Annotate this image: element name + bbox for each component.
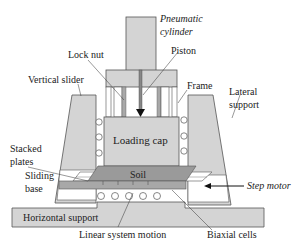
label-frame: Frame [187, 80, 213, 91]
label-horizontal-support: Horizontal support [23, 212, 98, 223]
label-step-motor: Step motor [247, 180, 291, 191]
frame-post-left-inner [114, 87, 122, 117]
label-pneumatic-cylinder-2: cylinder [160, 26, 193, 37]
sliding-base [59, 181, 186, 189]
label-lateral-support-1: Lateral [229, 86, 258, 97]
label-vertical-slider: Vertical slider [28, 74, 84, 85]
right-vertical-rollers [181, 117, 187, 154]
label-piston: Piston [171, 45, 196, 56]
lock-nut-right [157, 87, 161, 117]
label-stacked-plates-1: Stacked [10, 143, 42, 154]
label-linear-system-motion: Linear system motion [79, 229, 166, 240]
bottom-horizontal-rollers [98, 193, 161, 200]
label-sliding-base-2: base [25, 183, 43, 194]
label-lock-nut: Lock nut [68, 49, 104, 60]
label-sliding-base-1: Sliding [25, 170, 54, 181]
frame-post-right-inner [161, 87, 169, 117]
label-lateral-support-2: support [229, 99, 259, 110]
pneumatic-cylinder [126, 17, 156, 71]
lock-nut-left [122, 87, 126, 117]
frame-post-left-outer [106, 87, 111, 117]
label-biaxial-cells: Biaxial cells [207, 229, 257, 240]
direct-shear-apparatus-diagram: Pneumatic cylinder Lock nut Piston Verti… [0, 0, 294, 247]
label-soil: Soil [130, 169, 146, 180]
label-pneumatic-cylinder-1: Pneumatic [159, 13, 203, 24]
piston-arrow-icon [136, 109, 145, 117]
label-loading-cap: Loading cap [113, 134, 168, 146]
label-stacked-plates-2: plates [10, 156, 33, 167]
left-vertical-rollers [96, 119, 102, 156]
piston-rod [139, 70, 142, 110]
frame-post-right-outer [172, 87, 177, 117]
